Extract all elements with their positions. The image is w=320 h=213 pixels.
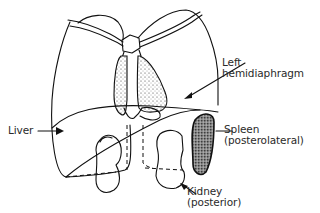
label-liver: Liver: [8, 125, 33, 136]
dashed-outlines: [66, 125, 182, 177]
right-hemidiaphragm: [52, 15, 124, 177]
label-kidney-line2: (posterior): [187, 197, 241, 208]
label-liver-line1: Liver: [8, 125, 33, 136]
left-kidney: [156, 130, 185, 188]
stomach: [114, 56, 167, 120]
label-kidney: Kidney (posterior): [187, 186, 241, 208]
right-kidney: [96, 135, 121, 192]
label-left-hemidiaphragm-line2: hemidiaphragm: [222, 68, 304, 79]
label-left-hemidiaphragm: Left hemidiaphragm: [222, 57, 304, 79]
anatomy-diagram: [0, 0, 320, 213]
spleen: [192, 114, 214, 174]
label-spleen: Spleen (posterolateral): [224, 124, 304, 146]
label-spleen-line2: (posterolateral): [224, 135, 304, 146]
